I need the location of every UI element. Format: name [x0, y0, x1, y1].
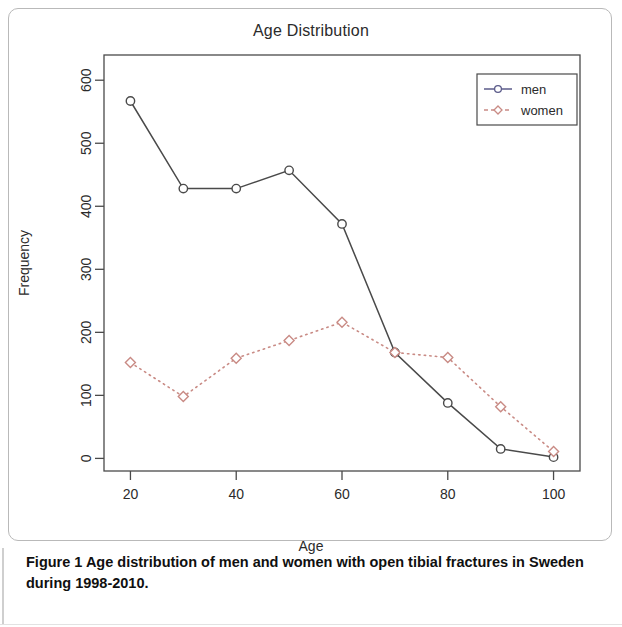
figure-caption: Figure 1 Age distribution of men and wom…: [26, 552, 598, 593]
chart-container: Age Distribution Frequency Age 010020030…: [0, 0, 622, 545]
chart-legend: menwomen: [477, 74, 577, 125]
data-point-women: [125, 358, 135, 368]
x-tick-label: 80: [440, 486, 456, 502]
legend-label-men: men: [521, 82, 546, 97]
y-tick-label: 400: [78, 194, 94, 218]
series-line-women: [130, 322, 553, 451]
data-point-men: [338, 220, 346, 228]
y-tick-label: 300: [78, 257, 94, 281]
x-axis-ticks: 20406080100: [123, 471, 566, 502]
y-tick-label: 100: [78, 383, 94, 407]
y-tick-label: 500: [78, 131, 94, 155]
figure-caption-label: Figure 1: [26, 554, 82, 570]
figure-root: Age Distribution Frequency Age 010020030…: [0, 0, 622, 627]
scan-edge-bottom: [0, 624, 622, 625]
x-tick-label: 60: [334, 486, 350, 502]
x-tick-label: 100: [542, 486, 566, 502]
y-tick-label: 200: [78, 320, 94, 344]
data-point-men: [285, 166, 293, 174]
data-point-men: [126, 97, 134, 105]
y-axis-ticks: 0100200300400500600: [78, 68, 104, 462]
legend-key-marker-men: [495, 86, 502, 93]
data-point-men: [179, 184, 187, 192]
y-tick-label: 0: [78, 454, 94, 462]
data-point-men: [496, 445, 504, 453]
figure-caption-text: Age distribution of men and women with o…: [26, 554, 584, 591]
data-point-women: [284, 336, 294, 346]
data-point-men: [232, 184, 240, 192]
data-point-women: [337, 317, 347, 327]
series-line-men: [130, 101, 553, 457]
data-point-men: [444, 399, 452, 407]
data-series-layer: [125, 97, 558, 462]
x-tick-label: 40: [228, 486, 244, 502]
x-tick-label: 20: [123, 486, 139, 502]
y-tick-label: 600: [78, 68, 94, 92]
chart-plot: 0100200300400500600 20406080100 menwomen: [0, 0, 622, 545]
scan-edge-left: [2, 548, 4, 624]
legend-label-women: women: [520, 103, 563, 118]
